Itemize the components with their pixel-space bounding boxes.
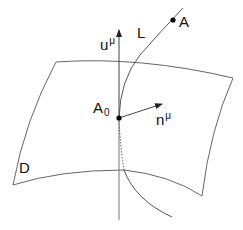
label-l: L [137,25,145,40]
label-u-sup: μ [109,35,115,46]
label-n-sup: μ [165,110,171,121]
label-l-text: L [137,24,145,41]
diagram-svg [0,0,243,230]
label-u-mu: uμ [100,37,115,52]
label-n-mu: nμ [156,112,171,127]
point-a0 [116,115,121,120]
diagram-canvas: A L uμ A0 nμ D [0,0,243,230]
surface-d [13,61,233,196]
label-d-text: D [19,159,30,176]
label-n-base: n [156,111,164,128]
label-a-text: A [179,13,189,30]
label-d: D [19,160,30,175]
curve-l-hidden [119,118,124,170]
curve-l-lower [124,170,172,217]
point-a [170,17,175,22]
label-a0-base: A [93,99,103,116]
curve-l-upper [119,8,183,118]
label-a0: A0 [93,100,110,115]
label-a0-sub: 0 [104,107,110,118]
label-u-base: u [100,36,108,53]
label-a: A [179,14,189,29]
